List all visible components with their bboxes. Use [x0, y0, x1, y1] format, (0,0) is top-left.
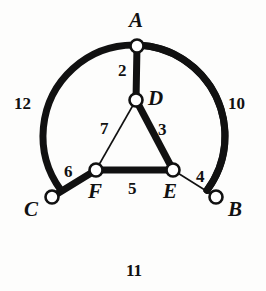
vertex-b — [210, 191, 223, 204]
vertex-label-a: A — [129, 10, 143, 31]
edge-weight-de: 3 — [158, 121, 167, 138]
vertex-label-f: F — [88, 181, 102, 202]
vertex-d — [130, 94, 143, 107]
graph-figure: ABCDEF234567101112 — [0, 0, 266, 291]
vertex-a — [131, 40, 144, 53]
edge-weight-cf: 6 — [64, 163, 73, 180]
edge-weight-cb: 11 — [126, 262, 142, 279]
graph-canvas — [0, 0, 266, 291]
vertex-label-d: D — [148, 88, 163, 109]
vertex-label-e: E — [163, 181, 177, 202]
edge-weight-ca: 12 — [14, 95, 31, 112]
edge-weight-ab: 10 — [228, 95, 245, 112]
edge-de — [136, 100, 173, 170]
vertex-f — [90, 164, 103, 177]
edge-ad — [136, 46, 137, 100]
edge-weight-df: 7 — [100, 120, 109, 137]
edge-weight-ad: 2 — [118, 62, 127, 79]
vertex-c — [46, 191, 59, 204]
vertex-e — [167, 164, 180, 177]
edge-weight-fe: 5 — [128, 180, 137, 197]
vertex-label-b: B — [228, 199, 242, 220]
edge-weight-eb: 4 — [196, 168, 205, 185]
vertex-label-c: C — [24, 199, 38, 220]
